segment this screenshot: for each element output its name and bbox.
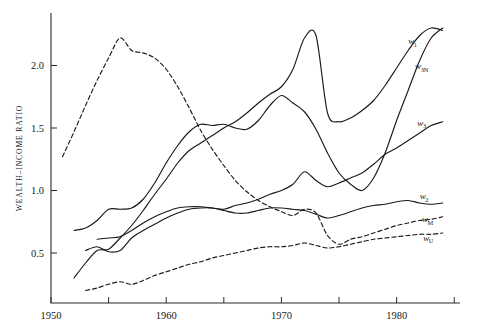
series-label-sub-w2: 2	[425, 196, 428, 203]
series-line-wM	[63, 38, 443, 244]
series-label-sub-w1: 1	[414, 41, 417, 48]
axes: 0.51.01.52.01950196019701980	[31, 13, 460, 321]
x-tick-label: 1980	[386, 310, 407, 321]
y-tick-label: 1.0	[31, 185, 44, 196]
x-tick-label: 1960	[156, 310, 177, 321]
series-label-w2: w2	[420, 191, 429, 203]
series-line-w3	[97, 122, 443, 240]
y-axis-title-text: WEALTH–INCOME RATIO	[15, 105, 24, 211]
series-label-wU: wU	[423, 233, 434, 245]
series-label-wM: wM	[422, 214, 434, 226]
series-label-sub-w3N: 3N	[421, 66, 429, 73]
y-tick-label: 2.0	[31, 60, 44, 71]
series-curves	[63, 28, 443, 291]
wealth-income-ratio-line-chart: 0.51.01.52.01950196019701980 w1w3Nw3w2wM…	[0, 0, 479, 336]
y-axis-title: WEALTH–INCOME RATIO	[15, 105, 24, 211]
axis-lines	[51, 13, 460, 303]
series-label-sub-wM: M	[428, 219, 434, 226]
series-labels: w1w3Nw3w2wMwU	[408, 36, 434, 244]
series-line-wU	[86, 233, 443, 291]
series-label-w3: w3	[417, 118, 426, 130]
x-tick-label: 1970	[271, 310, 292, 321]
chart-figure: 0.51.01.52.01950196019701980 w1w3Nw3w2wM…	[0, 0, 479, 336]
series-label-sub-wU: U	[429, 237, 434, 244]
series-label-w3N: w3N	[415, 61, 429, 73]
series-label-w1: w1	[408, 36, 417, 48]
series-line-w2	[86, 200, 443, 252]
series-label-sub-w3: 3	[423, 122, 426, 129]
y-tick-label: 0.5	[31, 248, 44, 259]
x-tick-label: 1950	[41, 310, 62, 321]
y-tick-label: 1.5	[31, 123, 44, 134]
